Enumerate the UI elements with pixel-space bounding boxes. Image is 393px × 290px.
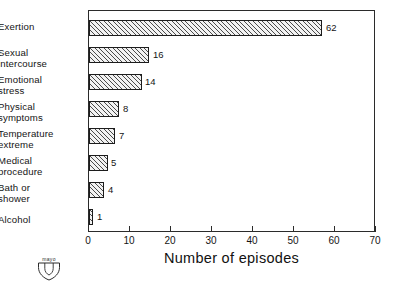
- mayo-clinic-shield-logo-icon: mayo: [34, 252, 64, 282]
- x-tick-label-10: 10: [117, 235, 141, 247]
- x-tick-label-70: 70: [363, 235, 387, 247]
- plot-area: 62 16 14 8 7 5 4 1: [88, 10, 375, 232]
- bar-chart-figure: Exertion Sexual intercourse Emotional st…: [0, 0, 393, 290]
- bar-value-bath-or-shower: 4: [108, 184, 113, 196]
- bar-medical-procedure: [89, 155, 108, 171]
- bar-emotional-stress: [89, 74, 142, 90]
- bar-value-emotional-stress: 14: [145, 76, 156, 88]
- bar-temperature-extreme: [89, 128, 115, 144]
- category-label-alcohol: Alcohol: [0, 214, 74, 225]
- x-tick-label-50: 50: [281, 235, 305, 247]
- x-tick-60: [334, 226, 335, 232]
- category-label-medical-procedure: Medical procedure: [0, 155, 74, 177]
- x-tick-label-60: 60: [322, 235, 346, 247]
- svg-text:mayo: mayo: [42, 256, 55, 262]
- category-label-emotional-stress: Emotional stress: [0, 74, 74, 96]
- plot-frame-right: [374, 10, 375, 232]
- bar-value-physical-symptoms: 8: [123, 103, 128, 115]
- category-axis-line: [88, 231, 376, 232]
- value-axis-line: [88, 10, 89, 232]
- bar-value-sexual-intercourse: 16: [153, 49, 164, 61]
- x-axis-title: Number of episodes: [88, 250, 375, 266]
- category-label-exertion: Exertion: [0, 21, 74, 32]
- bar-bath-or-shower: [89, 182, 104, 198]
- x-tick-label-30: 30: [199, 235, 223, 247]
- category-axis-labels: Exertion Sexual intercourse Emotional st…: [0, 10, 80, 225]
- bar-exertion: [89, 20, 322, 36]
- x-tick-label-40: 40: [240, 235, 264, 247]
- bar-sexual-intercourse: [89, 47, 149, 63]
- plot-frame-top: [88, 10, 375, 11]
- bar-value-temperature-extreme: 7: [119, 130, 124, 142]
- bar-value-alcohol: 1: [97, 211, 102, 223]
- bar-alcohol: [89, 209, 93, 225]
- category-label-sexual-intercourse: Sexual intercourse: [0, 47, 74, 69]
- x-tick-0: [88, 226, 89, 232]
- category-label-bath-or-shower: Bath or shower: [0, 182, 74, 204]
- x-tick-30: [211, 226, 212, 232]
- category-label-temperature-extreme: Temperature extreme: [0, 128, 74, 150]
- x-tick-10: [129, 226, 130, 232]
- x-tick-50: [293, 226, 294, 232]
- x-tick-label-20: 20: [158, 235, 182, 247]
- category-label-physical-symptoms: Physical symptoms: [0, 101, 74, 123]
- bar-value-medical-procedure: 5: [111, 157, 116, 169]
- x-tick-70: [375, 226, 376, 232]
- x-tick-20: [170, 226, 171, 232]
- bar-value-exertion: 62: [326, 22, 337, 34]
- x-tick-label-0: 0: [76, 235, 100, 247]
- x-tick-40: [252, 226, 253, 232]
- bar-physical-symptoms: [89, 101, 119, 117]
